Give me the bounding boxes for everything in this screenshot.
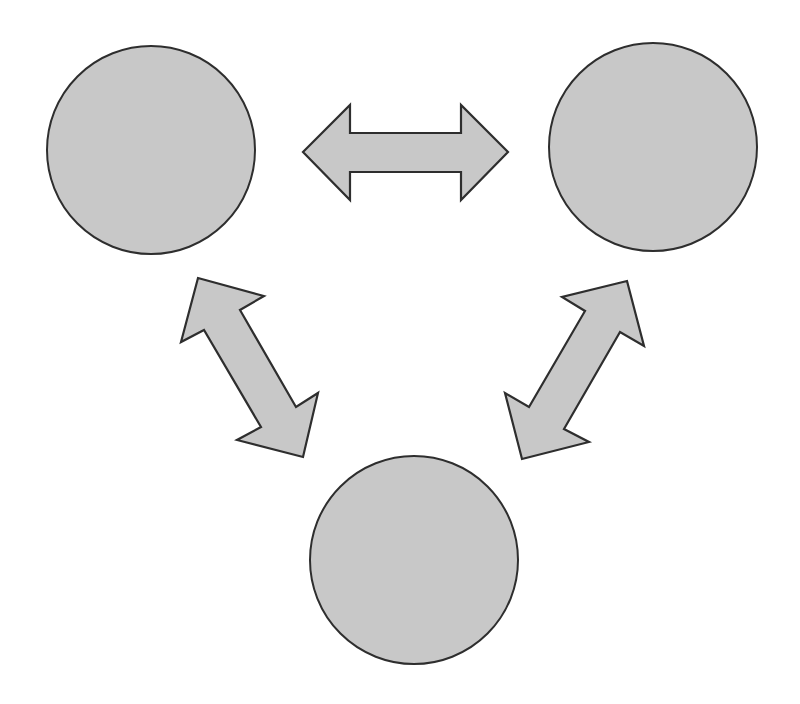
double-arrow-left-diagonal — [181, 278, 318, 457]
circle-node-top-right — [549, 43, 757, 251]
cycle-diagram — [0, 0, 800, 704]
node-bottom — [310, 456, 518, 664]
double-arrow-right-diagonal — [505, 281, 644, 459]
double-arrow-horizontal — [303, 105, 508, 200]
node-top-left — [47, 46, 255, 254]
node-top-right — [549, 43, 757, 251]
circle-node-top-left — [47, 46, 255, 254]
circle-node-bottom — [310, 456, 518, 664]
